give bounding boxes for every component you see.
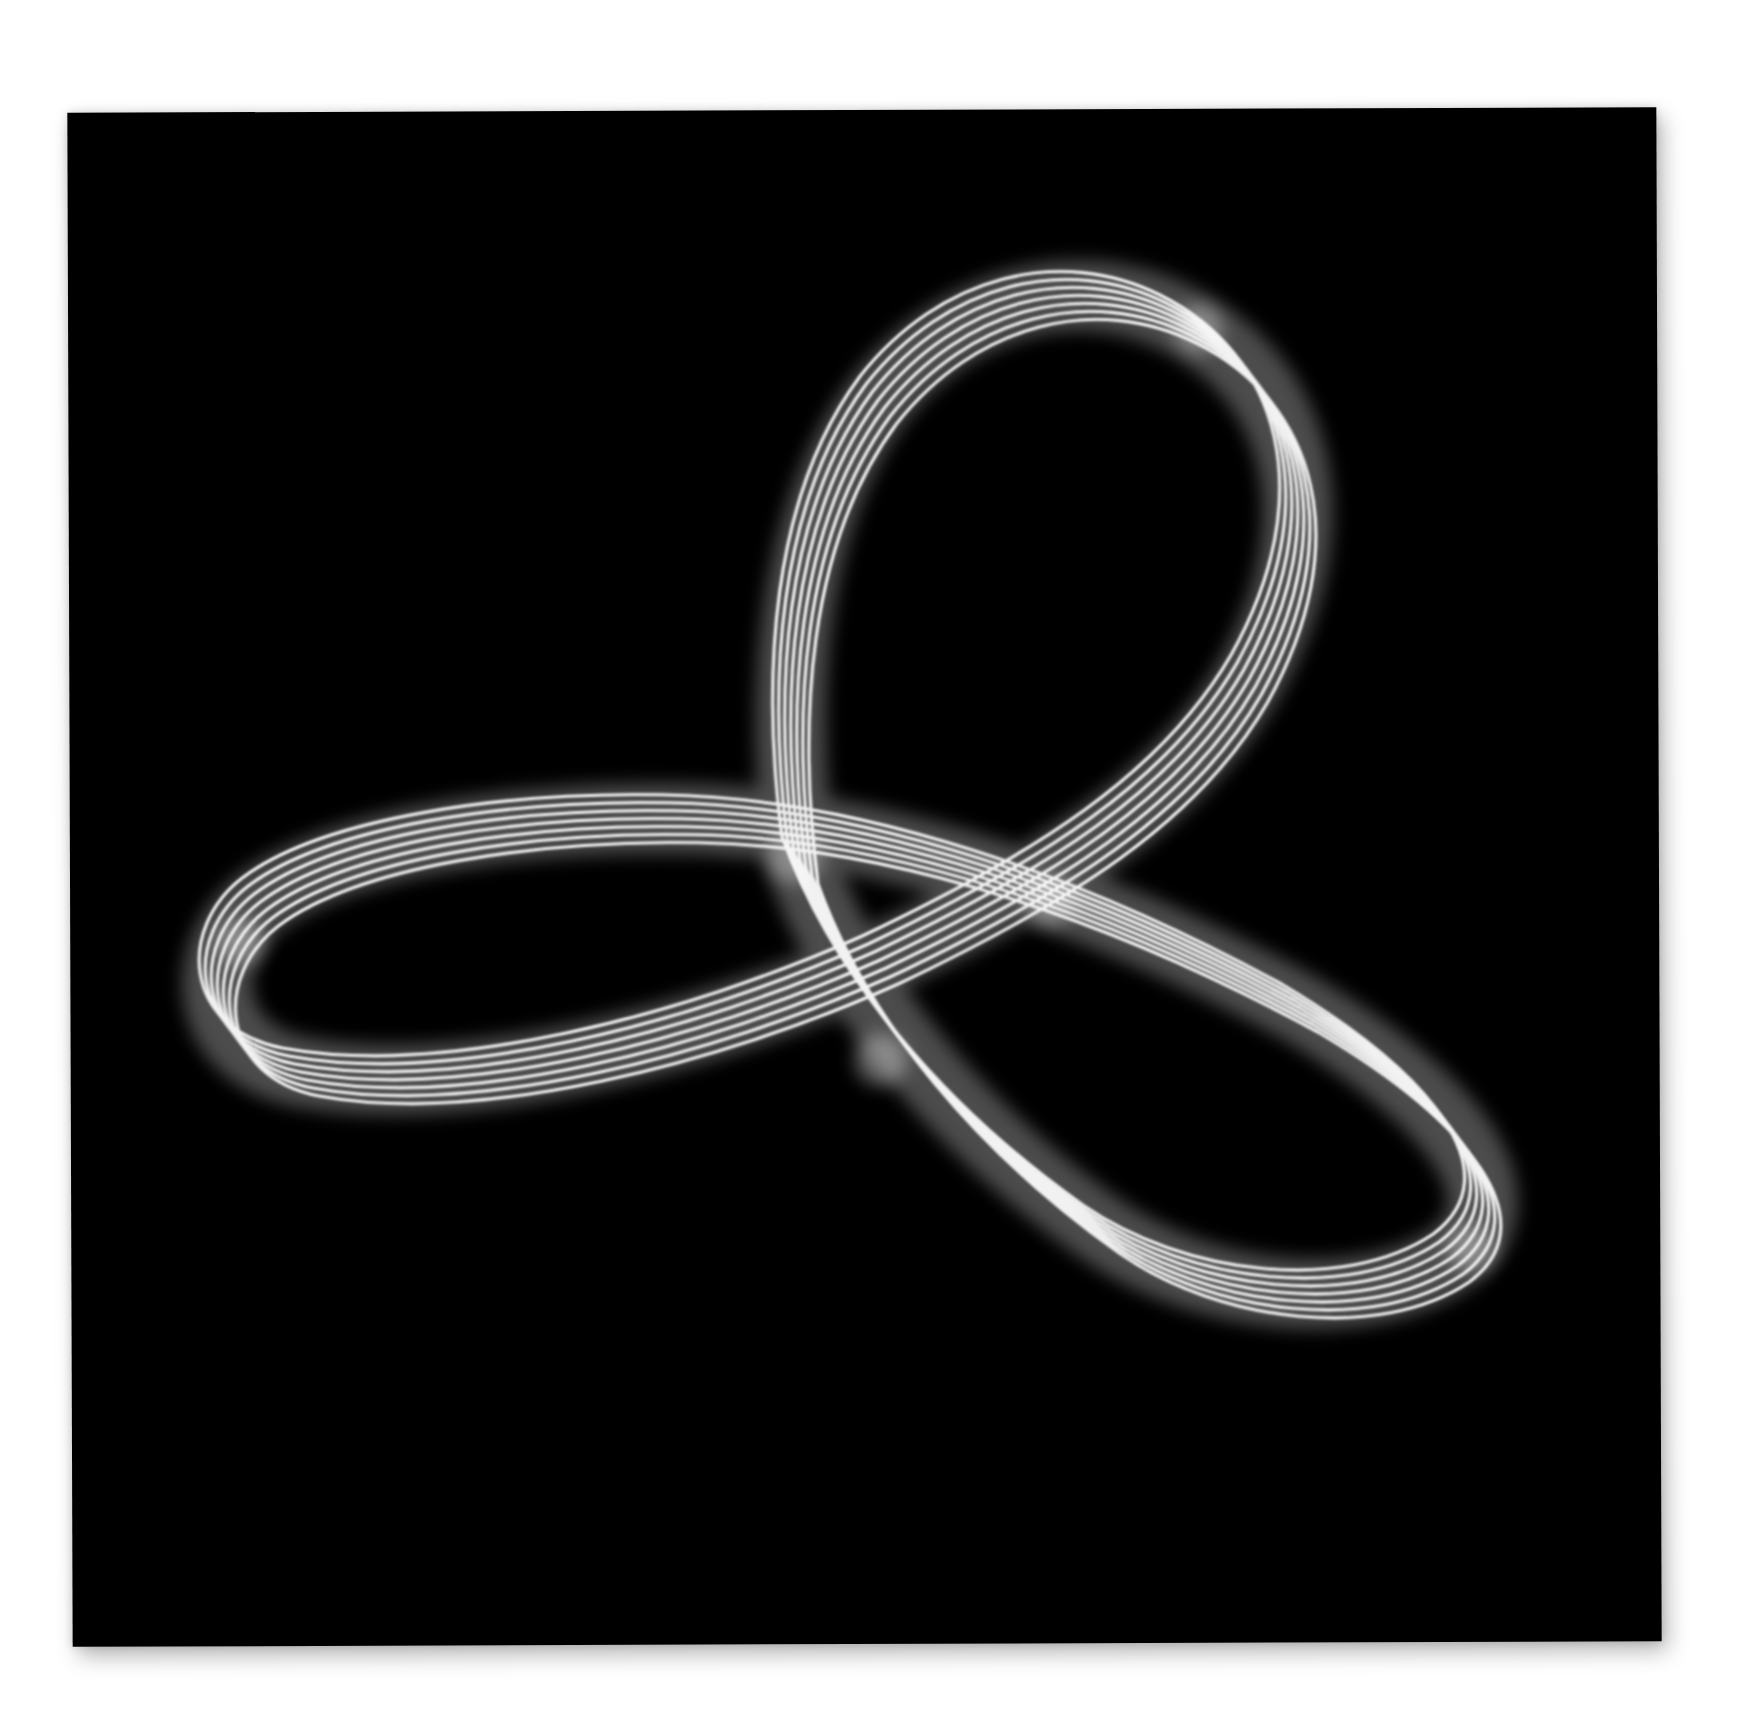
trefoil-knot-image xyxy=(67,107,1661,1647)
artwork-canvas: glowing multi-strand trefoil knot xyxy=(67,107,1661,1647)
